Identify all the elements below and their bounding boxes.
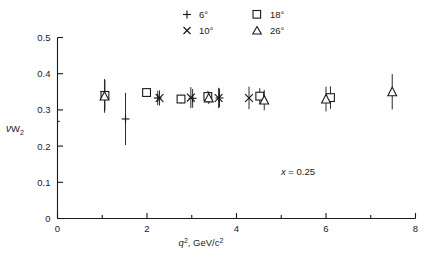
x-axis-title: q2, GeV/c2 — [179, 237, 224, 249]
legend: 6° 18° 10° 26° — [183, 9, 285, 36]
data-point — [216, 89, 224, 108]
y-tick-label: 0.4 — [37, 68, 50, 79]
legend-entry-18deg: 18° — [253, 9, 285, 20]
data-series-18deg — [101, 80, 334, 110]
square-icon — [253, 11, 261, 19]
chart-figure: 6° 18° 10° 26° 0246800.10.20.30.4 — [0, 0, 429, 262]
annotation-x-value: x = 0.25 — [280, 166, 315, 177]
data-point — [177, 95, 185, 104]
x-tick-label: 6 — [323, 223, 328, 234]
legend-label-6deg: 6° — [199, 9, 208, 20]
legend-label-10deg: 10° — [199, 25, 214, 36]
y-tick-label: 0.2 — [37, 141, 50, 152]
x-tick-label: 2 — [144, 223, 149, 234]
data-point — [245, 87, 253, 109]
data-point — [154, 91, 162, 105]
data-points-layer — [100, 74, 397, 145]
data-point — [388, 74, 397, 109]
triangle-icon — [253, 27, 262, 35]
x-tick-label: 4 — [234, 223, 239, 234]
cross-icon — [184, 27, 191, 34]
data-point — [122, 93, 130, 145]
axes: 0246800.10.20.30.40.5 — [37, 32, 418, 234]
y-tick-label: 0.3 — [37, 104, 50, 115]
legend-entry-26deg: 26° — [253, 25, 285, 36]
data-point — [187, 87, 195, 108]
y-axis-title: νW2 — [6, 123, 24, 136]
data-point — [143, 88, 151, 97]
plot-svg: 6° 18° 10° 26° 0246800.10.20.30.4 — [0, 0, 429, 262]
legend-label-26deg: 26° — [270, 25, 285, 36]
y-tick-label: 0.5 — [37, 32, 50, 43]
plus-icon — [183, 11, 191, 19]
x-tick-label: 0 — [55, 223, 60, 234]
y-tick-label: 0.1 — [37, 177, 50, 188]
y-tick-label: 0 — [45, 213, 50, 224]
x-tick-label: 8 — [413, 223, 418, 234]
legend-entry-6deg: 6° — [183, 9, 208, 20]
legend-entry-10deg: 10° — [184, 25, 214, 36]
legend-label-18deg: 18° — [270, 9, 285, 20]
